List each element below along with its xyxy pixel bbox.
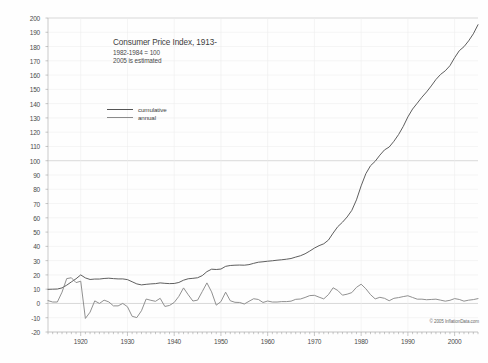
y-tick-label: 180 xyxy=(16,43,40,50)
chart-subtitle-base-period: 1982-1984 = 100 xyxy=(113,49,217,57)
axis-ticks xyxy=(46,18,479,336)
y-tick-label: 170 xyxy=(16,57,40,64)
legend-label-annual: annual xyxy=(138,114,156,121)
y-tick-label: 100 xyxy=(16,157,40,164)
y-tick-label: -10 xyxy=(16,314,40,321)
gridlines xyxy=(48,18,478,332)
y-tick-label: 80 xyxy=(16,186,40,193)
legend-label-cumulative: cumulative xyxy=(138,106,167,113)
y-tick-label: 120 xyxy=(16,129,40,136)
x-tick-label: 1970 xyxy=(299,338,329,345)
y-tick-label: 140 xyxy=(16,100,40,107)
y-tick-label: 90 xyxy=(16,172,40,179)
chart-title-block: Consumer Price Index, 1913- 1982-1984 = … xyxy=(113,38,217,65)
chart-subtitle-estimate-note: 2005 is estimated xyxy=(113,57,217,65)
legend-line-annual-icon xyxy=(107,117,133,118)
y-tick-label: 50 xyxy=(16,229,40,236)
chart-plot-area xyxy=(0,0,488,363)
x-tick-label: 2000 xyxy=(440,338,470,345)
chart-legend: cumulative annual xyxy=(107,105,167,121)
y-tick-label: 200 xyxy=(16,15,40,22)
legend-item-cumulative: cumulative xyxy=(107,105,167,113)
y-tick-label: 150 xyxy=(16,86,40,93)
y-tick-label: 70 xyxy=(16,200,40,207)
y-tick-label: 30 xyxy=(16,257,40,264)
y-tick-label: 110 xyxy=(16,143,40,150)
x-tick-label: 1940 xyxy=(159,338,189,345)
x-tick-label: 1980 xyxy=(346,338,376,345)
x-tick-label: 1920 xyxy=(66,338,96,345)
x-tick-label: 1990 xyxy=(393,338,423,345)
chart-title: Consumer Price Index, 1913- xyxy=(113,38,217,47)
x-tick-label: 1960 xyxy=(253,338,283,345)
x-tick-label: 1930 xyxy=(112,338,142,345)
y-tick-label: 60 xyxy=(16,214,40,221)
y-tick-label: 0 xyxy=(16,300,40,307)
y-tick-label: 40 xyxy=(16,243,40,250)
y-tick-label: 10 xyxy=(16,286,40,293)
y-tick-label: -20 xyxy=(16,329,40,336)
cpi-chart: 2001901801701601501401301201101009080706… xyxy=(0,0,488,363)
legend-item-annual: annual xyxy=(107,113,167,121)
data-series xyxy=(48,25,478,319)
y-tick-label: 130 xyxy=(16,114,40,121)
copyright-notice: © 2005 InflationData.com xyxy=(429,319,479,324)
legend-line-cumulative-icon xyxy=(107,109,133,110)
x-tick-label: 1950 xyxy=(206,338,236,345)
y-tick-label: 190 xyxy=(16,29,40,36)
y-tick-label: 160 xyxy=(16,72,40,79)
y-tick-label: 20 xyxy=(16,271,40,278)
